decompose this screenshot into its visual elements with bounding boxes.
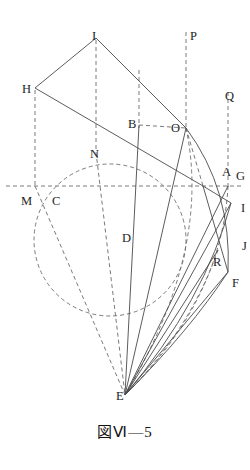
point-label-c: C [52, 195, 61, 208]
point-label-m: M [21, 195, 32, 208]
dashed-circle-group [34, 164, 186, 316]
point-label-b: B [128, 118, 137, 131]
point-label-g: G [236, 170, 245, 183]
point-label-p: P [190, 30, 197, 43]
point-label-d: D [122, 232, 131, 245]
segment-e-i [125, 203, 231, 395]
point-label-e: E [116, 390, 124, 403]
chord-n-e [96, 152, 125, 395]
dashed-lines-group [6, 32, 244, 395]
point-label-a: A [222, 166, 231, 179]
segment-e-r [125, 250, 218, 395]
point-label-o: O [171, 122, 180, 135]
geometric-figure: IPHQBONAGMCIDJRFE 図Ⅵ—5 [0, 0, 250, 470]
point-label-i-right: I [241, 202, 245, 215]
point-label-q: Q [225, 90, 234, 103]
point-label-j-right: J [242, 240, 247, 253]
segment-h-i [35, 38, 96, 88]
point-label-i-top: I [92, 30, 96, 43]
chord-m-e [35, 186, 125, 395]
segment-i-o [96, 38, 186, 128]
segment-h-a [35, 88, 203, 186]
solid-lines-group [35, 38, 231, 395]
point-label-f: F [232, 277, 239, 290]
point-label-h: H [22, 83, 31, 96]
main-dashed-circle [34, 164, 186, 316]
figure-caption: 図Ⅵ—5 [0, 420, 250, 441]
point-label-r: R [213, 256, 222, 269]
point-label-n: N [90, 148, 99, 161]
segment-o-e [125, 128, 186, 395]
